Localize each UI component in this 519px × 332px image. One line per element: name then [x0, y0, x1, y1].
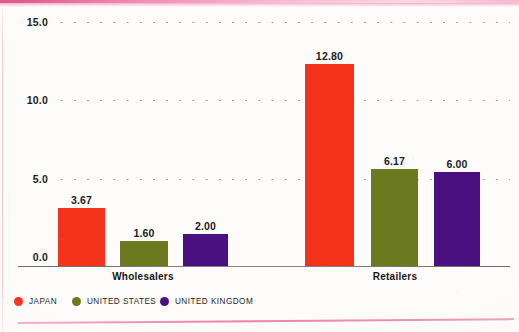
bar-retailers-united-states[interactable] — [371, 169, 418, 266]
bar-value-retailers-united-kingdom: 6.00 — [434, 158, 480, 170]
bar-wholesalers-united-kingdom[interactable] — [183, 234, 228, 266]
group-label-retailers: Retailers — [345, 271, 445, 282]
legend-item-japan[interactable]: JAPAN — [14, 292, 57, 310]
y-axis-tick-10: 10.0 — [14, 94, 48, 106]
gridline-15 — [55, 22, 510, 23]
bar-value-wholesalers-japan: 3.67 — [58, 194, 105, 206]
y-axis-tick-0: 0.0 — [14, 251, 48, 263]
circle-marker-united-states-icon — [72, 297, 81, 306]
bar-retailers-japan[interactable] — [305, 64, 354, 266]
bar-value-retailers-japan: 12.80 — [303, 50, 356, 62]
circle-marker-japan-icon — [14, 297, 23, 306]
scanned-chart-page: 15.0 10.0 5.0 0.0 3.67 1.60 2.00 Wholesa… — [0, 0, 519, 332]
x-axis-baseline — [18, 266, 510, 267]
legend-item-united-kingdom[interactable]: UNITED KINGDOM — [160, 292, 253, 310]
bar-chart-plot-area: 15.0 10.0 5.0 0.0 3.67 1.60 2.00 Wholesa… — [0, 0, 519, 332]
y-axis-tick-15: 15.0 — [14, 16, 48, 28]
group-label-wholesalers: Wholesalers — [83, 271, 203, 282]
bar-value-retailers-united-states: 6.17 — [371, 155, 418, 167]
bar-value-wholesalers-united-kingdom: 2.00 — [183, 220, 228, 232]
bar-value-wholesalers-united-states: 1.60 — [120, 227, 168, 239]
legend-label-japan: JAPAN — [29, 297, 57, 306]
bar-wholesalers-japan[interactable] — [58, 208, 105, 266]
bar-retailers-united-kingdom[interactable] — [434, 172, 480, 266]
bar-wholesalers-united-states[interactable] — [120, 241, 168, 266]
legend-item-united-states[interactable]: UNITED STATES — [72, 292, 156, 310]
y-axis-tick-5: 5.0 — [14, 173, 48, 185]
legend-label-united-states: UNITED STATES — [87, 297, 156, 306]
legend-label-united-kingdom: UNITED KINGDOM — [175, 297, 253, 306]
gridline-10 — [55, 100, 510, 101]
circle-marker-united-kingdom-icon — [160, 297, 169, 306]
